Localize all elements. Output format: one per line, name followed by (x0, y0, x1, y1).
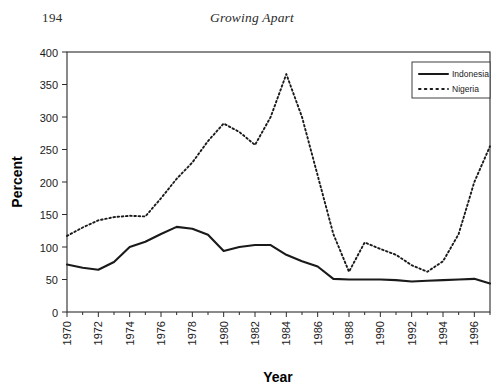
y-tick-label: 250 (40, 144, 58, 156)
y-tick-label: 200 (40, 177, 58, 189)
x-tick-label: 1990 (374, 321, 386, 345)
x-tick-label: 1994 (437, 321, 449, 345)
x-tick-label: 1988 (343, 321, 355, 345)
book-title: Growing Apart (0, 10, 504, 26)
y-tick-label: 100 (40, 242, 58, 254)
running-head: 194 Growing Apart (0, 10, 504, 32)
x-tick-label: 1976 (155, 321, 167, 345)
x-tick-label: 1972 (92, 321, 104, 345)
x-tick-label: 1996 (468, 321, 480, 345)
y-axis-title: Percent (9, 156, 25, 208)
x-tick-label: 1982 (249, 321, 261, 345)
book-page: 194 Growing Apart 0501001502002503003504… (0, 0, 504, 390)
y-tick-label: 0 (52, 307, 58, 319)
y-tick-label: 350 (40, 79, 58, 91)
y-tick-label: 50 (46, 274, 58, 286)
x-axis-title: Year (263, 369, 293, 385)
x-tick-label: 1980 (218, 321, 230, 345)
x-axis-ticks (67, 312, 490, 317)
chart-canvas: 050100150200250300350400 197019721974197… (0, 40, 504, 390)
x-tick-label: 1974 (124, 321, 136, 345)
chart-legend: IndonesiaNigeria (412, 62, 490, 98)
y-axis-tick-labels: 050100150200250300350400 (40, 47, 58, 319)
x-tick-label: 1984 (280, 321, 292, 345)
legend-label-nigeria: Nigeria (452, 84, 479, 94)
y-tick-label: 150 (40, 209, 58, 221)
x-axis-tick-labels: 1970197219741976197819801982198419861988… (61, 321, 480, 345)
y-tick-label: 400 (40, 47, 58, 59)
x-tick-label: 1992 (406, 321, 418, 345)
line-chart-figure: 050100150200250300350400 197019721974197… (0, 40, 504, 390)
x-tick-label: 1970 (61, 321, 73, 345)
y-axis-ticks (62, 52, 67, 312)
legend-label-indonesia: Indonesia (452, 69, 489, 79)
y-tick-label: 300 (40, 112, 58, 124)
x-tick-label: 1978 (186, 321, 198, 345)
x-tick-label: 1986 (312, 321, 324, 345)
